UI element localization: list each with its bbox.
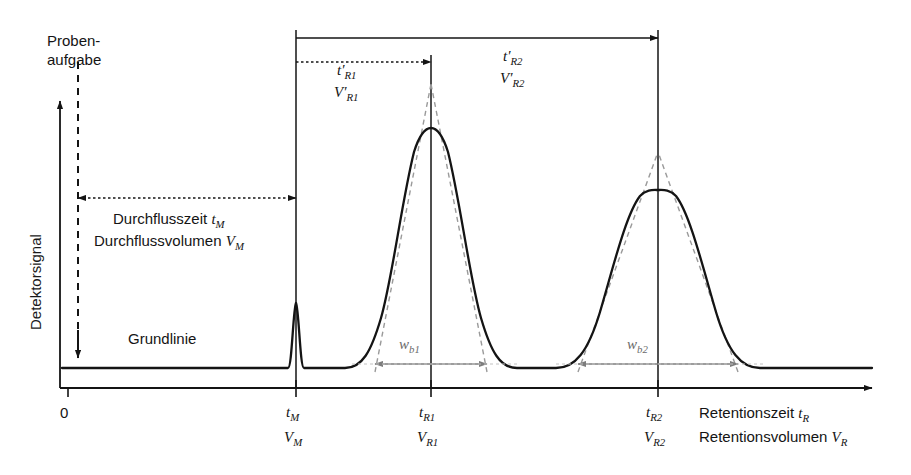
holdup-time-label: Durchflusszeit tM <box>113 210 225 231</box>
x-axis-label-time-text: Retentionszeit <box>699 404 794 421</box>
holdup-time-text: Durchflusszeit <box>113 210 207 227</box>
x-axis-label-volume-symbol: VR <box>832 429 848 445</box>
adjusted-retention-time-2-label: t′R2 <box>503 48 522 68</box>
x-axis-label-volume: Retentionsvolumen VR <box>699 428 847 449</box>
x-tick-t-M: tM <box>286 404 299 424</box>
peak-width-1-label: wb1 <box>399 336 420 356</box>
x-axis-label-volume-text: Retentionsvolumen <box>699 428 827 445</box>
injection-label-line2: aufgabe <box>47 51 101 69</box>
x-tick-V-M: VM <box>284 429 302 449</box>
peak-width-2-label: wb2 <box>627 336 648 356</box>
x-tick-V-R2: VR2 <box>644 429 665 449</box>
holdup-time-symbol: tM <box>211 211 224 227</box>
baseline-label: Grundlinie <box>128 330 196 348</box>
x-axis-label-time-symbol: tR <box>798 405 809 421</box>
adjusted-retention-time-1-label: t′R1 <box>337 62 356 82</box>
chromatogram-figure: Detektorsignal Proben- aufgabe Durchflus… <box>0 0 911 475</box>
holdup-volume-text: Durchflussvolumen <box>94 232 222 249</box>
x-axis-label-time: Retentionszeit tR <box>699 404 809 425</box>
injection-label-line1: Proben- <box>47 32 100 50</box>
adjusted-retention-volume-2-label: V′R2 <box>500 70 524 90</box>
x-tick-t-R1: tR1 <box>419 404 435 424</box>
x-tick-V-R1: VR1 <box>417 429 438 449</box>
x-tick-t-R2: tR2 <box>646 404 662 424</box>
holdup-volume-symbol: VM <box>226 233 244 249</box>
x-tick-origin: 0 <box>60 404 68 422</box>
adjusted-retention-volume-1-label: V′R1 <box>334 84 358 104</box>
holdup-volume-label: Durchflussvolumen VM <box>94 232 244 253</box>
y-axis-label: Detektorsignal <box>27 234 44 330</box>
